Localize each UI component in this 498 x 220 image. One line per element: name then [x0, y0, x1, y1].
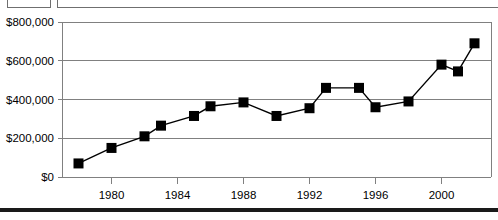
x-tick-label: 1996 [363, 189, 389, 201]
data-point-marker [470, 38, 480, 48]
chart-background [0, 10, 498, 210]
bottom-rule [0, 208, 498, 212]
data-point-marker [239, 97, 249, 107]
data-point-marker [321, 83, 331, 93]
line-chart: $0$200,000$400,000$600,000$800,000 19801… [0, 10, 498, 210]
table-horizontal-divider [57, 7, 498, 8]
data-point-marker [371, 102, 381, 112]
x-tick-label: 1984 [165, 189, 191, 201]
y-tick-label: $800,000 [6, 16, 54, 28]
data-point-marker [354, 83, 364, 93]
y-tick-label: $200,000 [6, 132, 54, 144]
data-point-marker [140, 131, 150, 141]
x-tick-label: 1988 [231, 189, 257, 201]
cropped-table-strip [0, 0, 498, 10]
data-point-marker [453, 66, 463, 76]
data-point-marker [107, 143, 117, 153]
data-point-marker [437, 60, 447, 70]
x-tick-label: 1992 [297, 189, 323, 201]
data-point-marker [74, 158, 84, 168]
x-tick-label: 2000 [429, 189, 455, 201]
x-tick-label: 1980 [99, 189, 125, 201]
y-tick-label: $0 [41, 171, 54, 183]
data-point-marker [305, 103, 315, 113]
data-point-marker [189, 111, 199, 121]
data-point-marker [156, 121, 166, 131]
data-point-marker [206, 101, 216, 111]
table-cell-box [7, 0, 51, 8]
data-point-marker [272, 111, 282, 121]
chart-svg: $0$200,000$400,000$600,000$800,000 19801… [0, 10, 498, 210]
y-tick-label: $400,000 [6, 94, 54, 106]
y-tick-label: $600,000 [6, 55, 54, 67]
data-point-marker [404, 96, 414, 106]
